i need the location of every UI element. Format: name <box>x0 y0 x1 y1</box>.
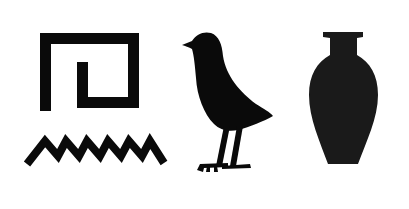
bird-glyph-icon <box>182 32 273 172</box>
spiral-glyph-icon <box>40 33 139 111</box>
hieroglyph-canvas: Egyptian hieroglyphs <box>0 0 409 209</box>
water-ripple-glyph-icon <box>27 141 164 164</box>
vase-glyph-icon <box>309 32 378 164</box>
